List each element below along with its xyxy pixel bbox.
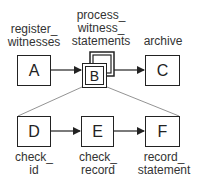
node-a[interactable]: A xyxy=(17,55,51,86)
expansion-line-left xyxy=(18,87,82,116)
node-c[interactable]: C xyxy=(145,55,180,86)
label-a-line2: witnesses xyxy=(4,36,64,49)
node-b[interactable]: B xyxy=(82,63,107,88)
label-b: process_ witness_ statements xyxy=(68,9,134,48)
node-a-id: A xyxy=(29,62,40,80)
label-d: check_ id xyxy=(8,151,60,177)
node-c-id: C xyxy=(157,62,169,80)
label-f: record_ statement xyxy=(134,151,194,177)
label-b-line3: statements xyxy=(68,35,134,48)
node-d-id: D xyxy=(28,123,40,141)
node-b-id: B xyxy=(90,68,99,84)
node-e-id: E xyxy=(92,123,103,141)
label-e: check_ record xyxy=(72,151,124,177)
label-c: archive xyxy=(138,35,188,48)
node-f[interactable]: F xyxy=(145,116,180,147)
node-f-id: F xyxy=(158,123,168,141)
node-d[interactable]: D xyxy=(17,116,51,147)
label-a: register_ witnesses xyxy=(4,23,64,49)
node-b-inner: B xyxy=(85,66,104,85)
label-d-line2: id xyxy=(8,164,60,177)
expansion-line-right xyxy=(107,87,179,116)
label-e-line2: record xyxy=(72,164,124,177)
label-c-line1: archive xyxy=(138,35,188,48)
node-e[interactable]: E xyxy=(81,116,114,147)
label-f-line2: statement xyxy=(134,164,194,177)
